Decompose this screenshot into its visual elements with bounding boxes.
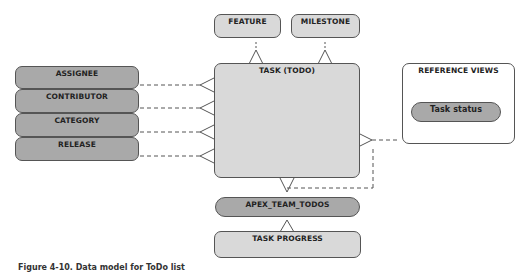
crowfoot-category-icon	[200, 125, 214, 139]
entity-feature-label: FEATURE	[215, 15, 280, 26]
crowfoot-bottom-icon	[280, 178, 294, 192]
entity-task-progress[interactable]: TASK PROGRESS	[214, 231, 361, 258]
entity-task[interactable]: TASK (TODO)	[214, 63, 360, 178]
entity-category[interactable]: CATEGORY	[15, 113, 139, 137]
reference-view-task-status[interactable]: Task status	[411, 102, 501, 122]
entity-feature[interactable]: FEATURE	[214, 14, 281, 38]
entity-release[interactable]: RELEASE	[15, 137, 139, 161]
entity-task-progress-label: TASK PROGRESS	[215, 232, 360, 243]
crowfoot-release-icon	[200, 149, 214, 163]
entity-milestone[interactable]: MILESTONE	[291, 14, 360, 38]
entity-apex-team-todos-label: APEX_TEAM_TODOS	[216, 198, 359, 209]
crowfoot-reference-icon	[358, 133, 372, 147]
entity-assignee-label: ASSIGNEE	[16, 67, 138, 78]
crowfoot-milestone-icon	[318, 50, 332, 64]
entity-release-label: RELEASE	[16, 138, 138, 149]
entity-contributor-label: CONTRIBUTOR	[16, 90, 138, 101]
entity-milestone-label: MILESTONE	[292, 15, 359, 26]
entity-apex-team-todos[interactable]: APEX_TEAM_TODOS	[215, 197, 360, 217]
entity-task-label: TASK (TODO)	[215, 64, 359, 75]
entity-assignee[interactable]: ASSIGNEE	[15, 66, 139, 89]
reference-view-task-status-label: Task status	[412, 103, 500, 114]
crowfoot-feature-icon	[249, 50, 263, 64]
entity-category-label: CATEGORY	[16, 114, 138, 125]
entity-contributor[interactable]: CONTRIBUTOR	[15, 89, 139, 113]
figure-caption: Figure 4-10. Data model for ToDo list	[18, 263, 185, 272]
crowfoot-contributor-icon	[200, 101, 214, 115]
reference-views-title: REFERENCE VIEWS	[403, 64, 514, 75]
crowfoot-assignee-icon	[200, 78, 214, 92]
